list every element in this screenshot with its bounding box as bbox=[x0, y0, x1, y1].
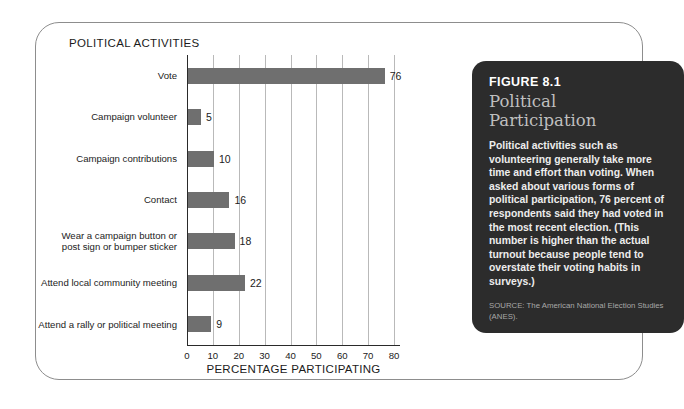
category-label: Attend local community meeting bbox=[41, 277, 185, 289]
x-axis-tick-label: 70 bbox=[363, 350, 374, 361]
x-axis-tick-label: 20 bbox=[233, 350, 244, 361]
x-axis-tick-label: 50 bbox=[311, 350, 322, 361]
bar-value-label: 16 bbox=[234, 194, 246, 206]
bar-value-label: 22 bbox=[250, 277, 262, 289]
gridline bbox=[291, 55, 292, 345]
x-axis-tick-label: 0 bbox=[184, 350, 189, 361]
x-axis-title: PERCENTAGE PARTICIPATING bbox=[187, 363, 400, 375]
bar bbox=[188, 192, 229, 208]
gridline bbox=[265, 55, 266, 345]
plot-area: 01020304050607080765101618229 bbox=[187, 55, 394, 345]
category-label: Contact bbox=[144, 194, 185, 206]
chart-title: POLITICAL ACTIVITIES bbox=[69, 37, 200, 49]
category-label: Vote bbox=[158, 70, 185, 82]
figure-card: POLITICAL ACTIVITIES VoteCampaign volunt… bbox=[35, 22, 643, 380]
gridline bbox=[342, 55, 343, 345]
bar bbox=[188, 151, 214, 167]
bar-value-label: 76 bbox=[390, 70, 402, 82]
gridline bbox=[394, 55, 395, 345]
bar bbox=[188, 109, 201, 125]
x-axis-line bbox=[187, 345, 400, 346]
category-label: Attend a rally or political meeting bbox=[38, 319, 185, 331]
category-label: Campaign contributions bbox=[76, 153, 185, 165]
x-axis-tick-label: 10 bbox=[208, 350, 219, 361]
caption-body: Political activities such as volunteerin… bbox=[489, 139, 667, 289]
bar-value-label: 10 bbox=[219, 153, 231, 165]
category-axis-labels: VoteCampaign volunteerCampaign contribut… bbox=[36, 55, 185, 345]
x-axis-tick-label: 60 bbox=[337, 350, 348, 361]
category-label: Campaign volunteer bbox=[91, 111, 185, 123]
figure-caption-panel: FIGURE 8.1 PoliticalParticipation Politi… bbox=[472, 61, 684, 333]
caption-figure-number: FIGURE 8.1 bbox=[489, 75, 667, 89]
gridline bbox=[316, 55, 317, 345]
bar-value-label: 5 bbox=[206, 111, 212, 123]
bar-chart: POLITICAL ACTIVITIES VoteCampaign volunt… bbox=[36, 23, 456, 381]
x-axis-tick-label: 30 bbox=[259, 350, 270, 361]
caption-source: SOURCE: The American National Election S… bbox=[489, 300, 667, 322]
caption-title: PoliticalParticipation bbox=[489, 92, 667, 130]
bar bbox=[188, 233, 235, 249]
x-axis-tick-label: 40 bbox=[285, 350, 296, 361]
category-label: Wear a campaign button or post sign or b… bbox=[61, 230, 185, 253]
bar bbox=[188, 68, 385, 84]
bar bbox=[188, 316, 211, 332]
bar bbox=[188, 275, 245, 291]
x-axis-tick-label: 80 bbox=[389, 350, 400, 361]
gridline bbox=[368, 55, 369, 345]
bar-value-label: 18 bbox=[240, 235, 252, 247]
bar-value-label: 9 bbox=[216, 318, 222, 330]
